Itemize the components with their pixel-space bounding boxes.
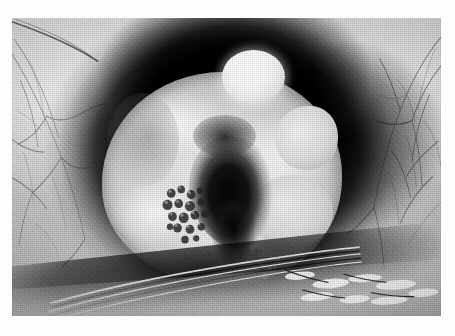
- granular-cluster: [160, 183, 222, 247]
- clinical-eye-photograph: [12, 18, 441, 316]
- mass-left-fold: [107, 93, 179, 187]
- figure-caption: [12, 324, 432, 336]
- ulcer-superior-extension: [193, 115, 255, 158]
- eyelashes: [269, 256, 441, 316]
- mass-right-lobe: [275, 106, 337, 170]
- superior-nodule: [222, 50, 284, 104]
- figure-page: [0, 0, 455, 336]
